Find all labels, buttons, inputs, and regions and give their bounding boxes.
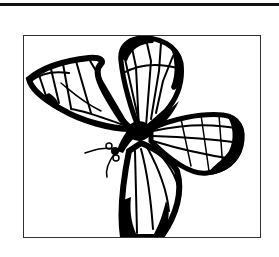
illustration-frame (23, 35, 261, 238)
antennae (85, 143, 119, 177)
left-forewing (29, 58, 131, 129)
right-hindwing-dark-edge (209, 115, 244, 175)
top-rule (0, 3, 279, 6)
butterfly-illustration (24, 36, 261, 238)
